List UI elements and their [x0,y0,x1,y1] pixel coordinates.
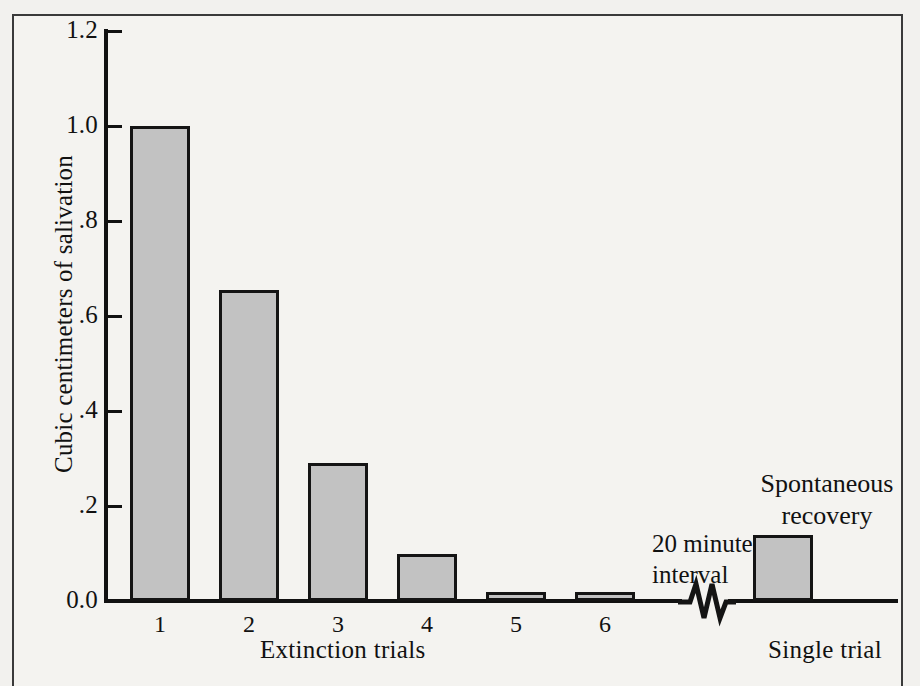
y-tick-label: .6 [79,302,98,327]
x-tick-label-2: 2 [219,612,279,636]
y-tick-mark [108,125,122,128]
y-tick-mark [108,410,122,413]
x-tick-label-4: 4 [397,612,457,636]
interval-annotation-line1: 20 minute [652,528,753,559]
y-tick-mark [108,315,122,318]
x-tick-label-6: 6 [575,612,635,636]
y-tick-label: .4 [79,397,98,422]
bar-4 [397,554,457,602]
y-tick-label: .8 [79,207,98,232]
x-tick-label-1: 1 [130,612,190,636]
y-tick-label: .2 [79,492,98,517]
y-tick-mark [108,30,122,33]
interval-annotation: 20 minute interval [652,528,753,590]
y-axis-title: Cubic centimeters of salivation [50,64,78,564]
x-axis-title: Extinction trials [260,636,426,664]
recovery-annotation: Spontaneous recovery [742,468,912,532]
y-tick-mark [108,220,122,223]
y-tick-label: 0.0 [66,587,98,612]
bar-6 [575,592,635,601]
y-tick-label: 1.2 [66,17,98,42]
bar-5 [486,592,546,602]
bar-spontaneous-recovery [753,535,813,602]
recovery-annotation-line1: Spontaneous [742,468,912,500]
recovery-annotation-line2: recovery [742,500,912,532]
y-tick-mark [108,600,122,603]
bar-2 [219,290,279,601]
single-trial-label: Single trial [768,636,882,664]
x-tick-label-5: 5 [486,612,546,636]
x-tick-label-3: 3 [308,612,368,636]
interval-annotation-line2: interval [652,559,753,590]
bar-1 [130,126,190,601]
y-tick-mark [108,505,122,508]
bar-3 [308,463,368,601]
